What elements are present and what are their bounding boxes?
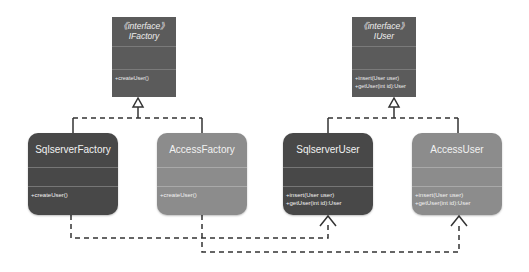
attributes-compartment (352, 47, 416, 70)
interface-ifactory[interactable]: 《interface》 IFactory +createUser() (112, 17, 176, 97)
operation: +getUser(int id):User (286, 199, 373, 207)
operations-compartment: +createUser() (112, 70, 176, 82)
class-accessfactory[interactable]: AccessFactory +createUser() (157, 133, 247, 215)
attributes-compartment (112, 47, 176, 70)
operation: +createUser() (160, 191, 247, 199)
operation: +insert(User user) (415, 191, 502, 199)
operations-compartment: +insert(User user) +getUser(int id):User (352, 70, 416, 90)
class-name: AccessUser (412, 133, 502, 168)
operation: +createUser() (115, 74, 176, 82)
class-sqlserveruser[interactable]: SqlserverUser +insert(User user) +getUse… (283, 133, 373, 215)
operation: +insert(User user) (355, 74, 416, 82)
class-header: 《interface》 IFactory (112, 17, 176, 47)
operation: +insert(User user) (286, 191, 373, 199)
class-name: AccessFactory (157, 133, 247, 168)
operations-compartment: +insert(User user) +getUser(int id):User (412, 187, 502, 207)
class-name: SqlserverUser (283, 133, 373, 168)
interface-iuser[interactable]: 《interface》 IUser +insert(User user) +ge… (352, 17, 416, 97)
operation: +getUser(int id):User (415, 199, 502, 207)
class-sqlserverfactory[interactable]: SqlserverFactory +createUser() (28, 133, 118, 215)
attributes-compartment (283, 168, 373, 187)
operations-compartment: +createUser() (157, 187, 247, 199)
class-accessuser[interactable]: AccessUser +insert(User user) +getUser(i… (412, 133, 502, 215)
class-name: IFactory (112, 31, 176, 41)
operation: +createUser() (31, 191, 118, 199)
attributes-compartment (28, 168, 118, 187)
class-name: IUser (352, 31, 416, 41)
class-name: SqlserverFactory (28, 133, 118, 168)
operations-compartment: +insert(User user) +getUser(int id):User (283, 187, 373, 207)
attributes-compartment (157, 168, 247, 187)
operations-compartment: +createUser() (28, 187, 118, 199)
stereotype-label: 《interface》 (352, 21, 416, 31)
attributes-compartment (412, 168, 502, 187)
stereotype-label: 《interface》 (112, 21, 176, 31)
class-header: 《interface》 IUser (352, 17, 416, 47)
operation: +getUser(int id):User (355, 82, 416, 90)
